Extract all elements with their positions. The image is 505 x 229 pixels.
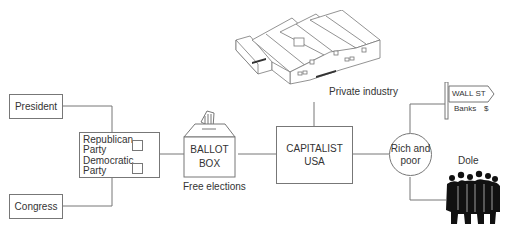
rich-and-poor-line2: poor — [400, 155, 420, 167]
crowd-of-people-icon — [444, 168, 502, 226]
ballot-box-line2: BOX — [199, 158, 220, 170]
rich-and-poor-line1: Rich and — [391, 143, 430, 155]
capitalist-usa-line1: CAPITALIST — [286, 143, 343, 155]
parties-box: Republican Party Democratic Party — [79, 132, 160, 178]
wall-st-sign-label: WALL ST — [452, 89, 486, 98]
congress-label: Congress — [15, 201, 58, 213]
free-elections-caption: Free elections — [183, 181, 246, 193]
capitalist-usa-line2: USA — [304, 156, 325, 168]
ballot-box-text: BALLOT BOX — [184, 138, 235, 176]
capitalist-usa-box: CAPITALIST USA — [276, 126, 353, 184]
diagram-canvas: President Congress Republican Party Demo… — [0, 0, 505, 229]
democratic-checkbox[interactable] — [132, 163, 143, 174]
dole-caption: Dole — [458, 155, 479, 167]
democratic-label-line2: Party — [83, 165, 106, 177]
congress-box: Congress — [9, 194, 63, 219]
banks-label: Banks — [454, 104, 476, 113]
rich-and-poor-node: Rich and poor — [389, 133, 432, 176]
factory-icon — [230, 10, 390, 90]
private-industry-caption: Private industry — [329, 86, 398, 98]
president-box: President — [9, 94, 63, 119]
dollar-symbol: $ — [484, 104, 488, 113]
ballot-box-line1: BALLOT — [190, 144, 228, 156]
republican-checkbox[interactable] — [132, 140, 143, 151]
president-label: President — [15, 101, 57, 113]
wall-st-sign-icon — [444, 82, 504, 120]
